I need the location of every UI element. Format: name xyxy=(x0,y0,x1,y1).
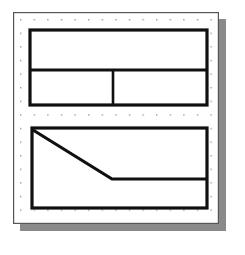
lower-room-block[interactable] xyxy=(32,128,207,208)
upper-room-outline xyxy=(30,30,207,105)
lower-room-outline xyxy=(32,128,207,208)
drawing-canvas xyxy=(0,0,245,255)
floor-plan-drawing xyxy=(0,0,245,255)
upper-room-block[interactable] xyxy=(30,30,207,105)
